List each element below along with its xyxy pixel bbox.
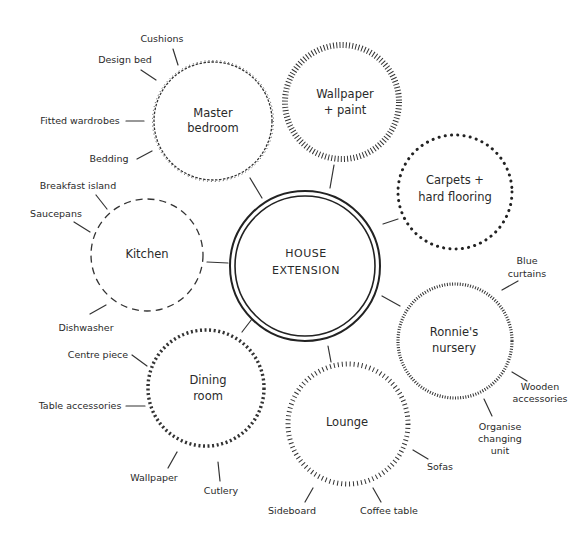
- item-cutlery: Cutlery: [204, 485, 239, 496]
- item-unit: unit: [491, 445, 510, 456]
- master-bedroom-label-1: Master: [193, 106, 233, 120]
- nursery-label-1: Ronnie's: [430, 325, 479, 339]
- item-changing: changing: [478, 433, 522, 444]
- carpets-label-2: hard flooring: [418, 190, 492, 204]
- item-coffee-table: Coffee table: [360, 505, 418, 516]
- dining-label-1: Dining: [189, 373, 226, 387]
- node-dining-room[interactable]: Dining room: [148, 330, 264, 446]
- master-bedroom-label-2: bedroom: [187, 121, 238, 135]
- nursery-label-2: nursery: [432, 341, 476, 355]
- item-bedding: Bedding: [89, 153, 128, 164]
- node-house-extension[interactable]: HOUSE EXTENSION: [230, 191, 380, 341]
- connector-lounge: [328, 346, 331, 362]
- node-nursery[interactable]: Ronnie's nursery: [398, 284, 512, 398]
- connector-dining: [242, 319, 252, 332]
- item-dishwasher: Dishwasher: [58, 322, 113, 333]
- wallpaper-paint-outline: [285, 45, 399, 159]
- center-label-line1: HOUSE: [285, 247, 326, 260]
- item-cushions: Cushions: [140, 33, 183, 44]
- item-blue: Blue: [516, 255, 537, 266]
- kitchen-items: Breakfast island Saucepans Dishwasher: [30, 180, 116, 333]
- lounge-label: Lounge: [326, 415, 368, 429]
- connector-master-bedroom: [250, 178, 262, 198]
- item-accessories: accessories: [512, 393, 567, 404]
- master-bedroom-items: Cushions Design bed Fitted wardrobes Bed…: [40, 33, 183, 164]
- connector-nursery: [382, 296, 400, 306]
- item-design-bed: Design bed: [98, 54, 152, 65]
- node-master-bedroom[interactable]: Master bedroom: [153, 61, 274, 182]
- item-centre-piece: Centre piece: [68, 349, 129, 360]
- wallpaper-paint-label-2: + paint: [324, 103, 367, 117]
- node-kitchen[interactable]: Kitchen: [91, 199, 203, 311]
- connector-wallpaper: [330, 165, 334, 188]
- kitchen-label: Kitchen: [125, 247, 168, 261]
- wallpaper-paint-label-1: Wallpaper: [316, 87, 374, 101]
- connector-carpets: [383, 219, 398, 224]
- dining-label-2: room: [193, 389, 223, 403]
- item-curtains: curtains: [508, 268, 546, 279]
- item-dining-wallpaper: Wallpaper: [130, 472, 178, 483]
- item-fitted-wardrobes: Fitted wardrobes: [40, 115, 120, 126]
- item-table-accessories: Table accessories: [38, 400, 122, 411]
- item-sideboard: Sideboard: [268, 505, 316, 516]
- connector-kitchen: [207, 262, 228, 263]
- item-wooden: Wooden: [521, 381, 559, 392]
- node-wallpaper-paint[interactable]: Wallpaper + paint: [285, 45, 399, 159]
- item-organise: Organise: [479, 421, 522, 432]
- item-breakfast-island: Breakfast island: [40, 180, 116, 191]
- carpets-label-1: Carpets +: [426, 173, 484, 187]
- node-lounge[interactable]: Lounge: [288, 364, 408, 484]
- center-label-line2: EXTENSION: [272, 264, 340, 277]
- item-sofas: Sofas: [427, 461, 453, 472]
- node-carpets[interactable]: Carpets + hard flooring: [398, 135, 512, 249]
- item-saucepans: Saucepans: [30, 208, 82, 219]
